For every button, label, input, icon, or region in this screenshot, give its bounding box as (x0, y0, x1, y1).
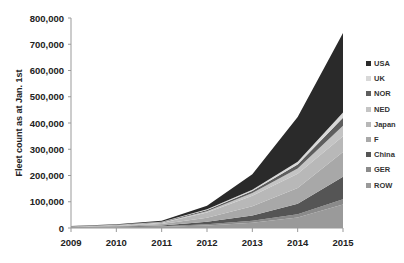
y-tick-label: 0 (59, 223, 64, 234)
legend-label: NOR (374, 89, 391, 98)
stacked-area-chart: 0100,000200,000300,000400,000500,000600,… (0, 0, 404, 263)
y-tick-label: 300,000 (30, 144, 64, 155)
legend-item-china: China (366, 147, 396, 162)
legend-item-f: F (366, 132, 396, 147)
legend-swatch (366, 91, 371, 96)
legend-label: F (374, 135, 379, 144)
y-tick-label: 400,000 (30, 118, 64, 129)
y-axis-ticks: 0100,000200,000300,000400,000500,000600,… (30, 13, 71, 234)
legend-swatch (366, 183, 371, 188)
y-tick-label: 100,000 (30, 196, 64, 207)
y-tick-label: 600,000 (30, 65, 64, 76)
x-tick-label: 2015 (332, 237, 354, 248)
legend-label: USA (374, 59, 390, 68)
legend-swatch (366, 167, 371, 172)
x-axis-ticks: 2009201020112012201320142015 (60, 228, 354, 248)
legend-swatch (366, 76, 371, 81)
legend-label: NED (374, 105, 390, 114)
legend-item-uk: UK (366, 71, 396, 86)
y-tick-label: 700,000 (30, 39, 64, 50)
legend-label: Japan (374, 120, 396, 129)
legend-item-japan: Japan (366, 117, 396, 132)
legend-label: China (374, 150, 395, 159)
legend-item-ger: GER (366, 162, 396, 177)
legend-item-row: ROW (366, 178, 396, 193)
legend-swatch (366, 122, 371, 127)
legend-label: ROW (374, 181, 392, 190)
y-tick-label: 500,000 (30, 91, 64, 102)
legend-item-nor: NOR (366, 86, 396, 101)
legend-swatch (366, 152, 371, 157)
legend-item-usa: USA (366, 56, 396, 71)
legend-item-ned: NED (366, 102, 396, 117)
legend-swatch (366, 107, 371, 112)
legend-swatch (366, 137, 371, 142)
x-tick-label: 2014 (287, 237, 309, 248)
chart-areas (71, 33, 343, 228)
y-tick-label: 200,000 (30, 170, 64, 181)
x-tick-label: 2009 (60, 237, 81, 248)
legend-swatch (366, 61, 371, 66)
x-tick-label: 2013 (242, 237, 263, 248)
legend-label: UK (374, 74, 385, 83)
x-tick-label: 2012 (196, 237, 217, 248)
legend-label: GER (374, 165, 390, 174)
y-axis-label: Fleet count as at Jan. 1st (14, 69, 24, 176)
y-tick-label: 800,000 (30, 13, 64, 24)
chart-legend: USAUKNORNEDJapanFChinaGERROW (366, 56, 396, 193)
x-tick-label: 2010 (106, 237, 127, 248)
x-tick-label: 2011 (151, 237, 172, 248)
